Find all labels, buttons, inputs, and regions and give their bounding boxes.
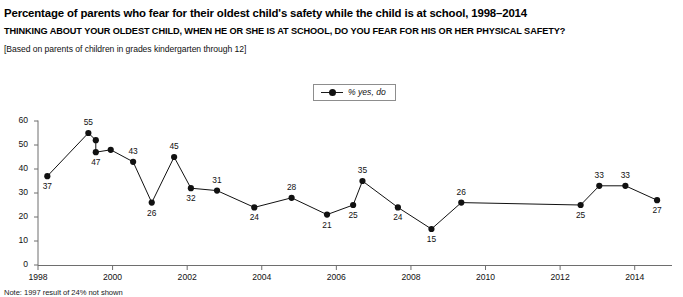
x-axis-tick-label: 2000 bbox=[93, 272, 133, 282]
data-point-label: 25 bbox=[341, 210, 365, 220]
data-point-marker[interactable] bbox=[458, 200, 464, 206]
data-point-marker[interactable] bbox=[108, 147, 114, 153]
data-point-label: 24 bbox=[386, 212, 410, 222]
y-axis-tick-label: 10 bbox=[6, 235, 28, 245]
data-point-label: 25 bbox=[569, 210, 593, 220]
data-point-label: 32 bbox=[179, 193, 203, 203]
data-point-marker[interactable] bbox=[654, 197, 660, 203]
data-point-marker[interactable] bbox=[251, 204, 257, 210]
data-point-label: 15 bbox=[419, 234, 443, 244]
x-axis-tick-label: 2008 bbox=[391, 272, 431, 282]
x-axis-tick-label: 1998 bbox=[18, 272, 58, 282]
y-axis-tick-label: 60 bbox=[6, 115, 28, 125]
data-point-marker[interactable] bbox=[214, 188, 220, 194]
data-point-marker[interactable] bbox=[149, 200, 155, 206]
data-point-marker[interactable] bbox=[350, 202, 356, 208]
x-axis-tick-label: 2014 bbox=[615, 272, 655, 282]
data-point-marker[interactable] bbox=[578, 202, 584, 208]
x-axis-tick-label: 2004 bbox=[242, 272, 282, 282]
data-point-marker[interactable] bbox=[324, 212, 330, 218]
data-point-marker[interactable] bbox=[428, 226, 434, 232]
data-point-label: 26 bbox=[140, 208, 164, 218]
data-point-marker[interactable] bbox=[93, 149, 99, 155]
data-point-label: 31 bbox=[205, 175, 229, 185]
data-point-marker[interactable] bbox=[44, 173, 50, 179]
data-point-label: 35 bbox=[350, 165, 374, 175]
data-point-marker[interactable] bbox=[171, 154, 177, 160]
x-axis-tick-label: 2006 bbox=[316, 272, 356, 282]
data-point-label: 43 bbox=[121, 146, 145, 156]
x-axis-tick-label: 2010 bbox=[466, 272, 506, 282]
y-axis-tick-label: 30 bbox=[6, 187, 28, 197]
data-point-marker[interactable] bbox=[395, 204, 401, 210]
y-axis-tick-label: 40 bbox=[6, 163, 28, 173]
data-point-label: 47 bbox=[84, 157, 108, 167]
data-point-label: 21 bbox=[315, 220, 339, 230]
data-point-label: 28 bbox=[280, 182, 304, 192]
data-point-marker[interactable] bbox=[596, 183, 602, 189]
data-point-label: 33 bbox=[613, 170, 637, 180]
data-point-label: 33 bbox=[587, 170, 611, 180]
data-point-marker[interactable] bbox=[188, 185, 194, 191]
y-axis-tick-label: 50 bbox=[6, 139, 28, 149]
data-point-marker[interactable] bbox=[130, 159, 136, 165]
data-point-label: 24 bbox=[242, 212, 266, 222]
chart-page: Percentage of parents who fear for their… bbox=[0, 0, 683, 297]
data-point-label: 26 bbox=[449, 187, 473, 197]
chart-plot-area: 0102030405060199820002002200420062008201… bbox=[0, 0, 683, 297]
data-point-marker[interactable] bbox=[93, 137, 99, 143]
chart-svg bbox=[0, 0, 683, 297]
data-point-label: 27 bbox=[645, 205, 669, 215]
data-point-label: 45 bbox=[162, 141, 186, 151]
y-axis-tick-label: 20 bbox=[6, 211, 28, 221]
data-point-marker[interactable] bbox=[622, 183, 628, 189]
data-point-marker[interactable] bbox=[289, 195, 295, 201]
x-axis-tick-label: 2002 bbox=[167, 272, 207, 282]
y-axis-tick-label: 0 bbox=[6, 259, 28, 269]
data-point-marker[interactable] bbox=[359, 178, 365, 184]
data-point-label: 37 bbox=[35, 181, 59, 191]
data-point-label: 55 bbox=[76, 117, 100, 127]
data-point-marker[interactable] bbox=[85, 130, 91, 136]
x-axis-tick-label: 2012 bbox=[540, 272, 580, 282]
chart-footnote: Note: 1997 result of 24% not shown bbox=[4, 288, 123, 297]
